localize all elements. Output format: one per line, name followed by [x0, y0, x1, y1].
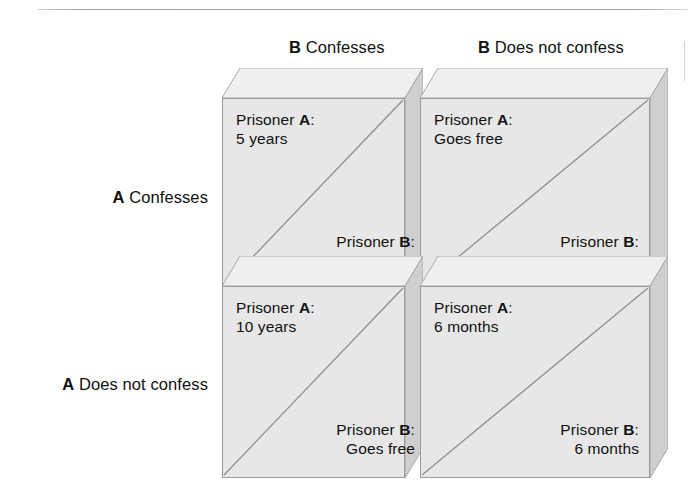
prisoner-letter: A	[299, 111, 310, 128]
row-header-actor: A	[112, 188, 124, 206]
cell-1-0-payoff-a: Prisoner A: 10 years	[236, 298, 315, 336]
prisoner-letter: B	[623, 233, 634, 250]
prisoner-word: Prisoner	[560, 421, 619, 438]
colon: :	[508, 299, 512, 316]
column-header-actor: B	[289, 38, 301, 56]
right-edge-tick	[684, 41, 685, 81]
prisoner-letter: B	[623, 421, 634, 438]
column-header-b-does-not-confess: B Does not confess	[478, 38, 624, 57]
prisoner-word: Prisoner	[434, 111, 493, 128]
prisoner-letter: A	[299, 299, 310, 316]
prisoner-letter: A	[497, 299, 508, 316]
cell-1-1-payoff-b: Prisoner B: 6 months	[441, 420, 639, 458]
payoff-value: 6 months	[434, 318, 499, 335]
prisoner-letter: B	[399, 233, 410, 250]
row-header-label: Does not confess	[79, 375, 208, 393]
prisoner-word: Prisoner	[434, 299, 493, 316]
payoff-value: Goes free	[434, 130, 503, 147]
prisoner-word: Prisoner	[336, 421, 395, 438]
column-header-label: Does not confess	[495, 38, 624, 56]
prisoner-word: Prisoner	[236, 299, 295, 316]
row-header-a-confesses: A Confesses	[0, 188, 208, 207]
column-header-actor: B	[478, 38, 490, 56]
column-header-b-confesses: B Confesses	[289, 38, 385, 57]
colon: :	[411, 233, 415, 250]
colon: :	[635, 421, 639, 438]
colon: :	[508, 111, 512, 128]
payoff-value: 6 months	[574, 440, 639, 457]
cell-1-0-payoff-b: Prisoner B: Goes free	[243, 420, 415, 458]
cell-0-0-payoff-a: Prisoner A: 5 years	[236, 110, 315, 148]
colon: :	[411, 421, 415, 438]
cell-1-1-payoff-a: Prisoner A: 6 months	[434, 298, 513, 336]
colon: :	[310, 111, 314, 128]
row-header-a-does-not-confess: A Does not confess	[0, 375, 208, 394]
column-header-label: Confesses	[306, 38, 385, 56]
colon: :	[635, 233, 639, 250]
payoff-value: Goes free	[346, 440, 415, 457]
payoff-value: 10 years	[236, 318, 296, 335]
payoff-value: 5 years	[236, 130, 288, 147]
colon: :	[310, 299, 314, 316]
prisoner-letter: B	[399, 421, 410, 438]
prisoner-word: Prisoner	[336, 233, 395, 250]
cell-0-1-payoff-a: Prisoner A: Goes free	[434, 110, 513, 148]
row-header-actor: A	[62, 375, 74, 393]
prisoner-letter: A	[497, 111, 508, 128]
prisoner-word: Prisoner	[236, 111, 295, 128]
top-horizontal-rule	[38, 9, 688, 10]
prisoner-word: Prisoner	[560, 233, 619, 250]
row-header-label: Confesses	[129, 188, 208, 206]
